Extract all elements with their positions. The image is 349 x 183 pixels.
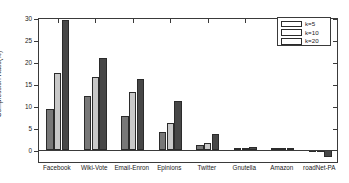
y-tick-label: 15 <box>25 82 32 88</box>
y-tick-label: 0 <box>28 148 32 154</box>
x-tick-label: roadNet-PA <box>303 165 335 171</box>
y-tick <box>34 129 39 130</box>
y-tick <box>34 41 39 42</box>
legend-label-k5: k=5 <box>305 21 315 27</box>
x-tick-mirror <box>245 19 246 23</box>
bar-k20-twitter <box>212 134 219 150</box>
y-tick-label: 5 <box>28 126 32 132</box>
x-tick-label: Wiki-Vote <box>81 165 108 171</box>
x-tick-label: Gnutella <box>233 165 256 171</box>
y-tick-label: 20 <box>25 60 32 66</box>
y-tick-label: 10 <box>25 104 32 110</box>
y-tick <box>34 85 39 86</box>
y-tick-mirror <box>333 19 337 20</box>
bar-k20-wiki-vote <box>99 58 106 150</box>
zero-baseline <box>38 150 338 151</box>
legend-label-k10: k=10 <box>305 30 319 36</box>
legend-swatch-k5 <box>281 21 302 28</box>
legend-item: k=20 <box>281 37 327 45</box>
legend-swatch-k20 <box>281 38 302 45</box>
bar-k10-email-enron <box>129 92 136 150</box>
legend-swatch-k10 <box>281 29 302 36</box>
x-tick-label: Amazon <box>270 165 293 171</box>
x-tick-mirror <box>133 19 134 23</box>
bar-k5-wiki-vote <box>84 96 91 150</box>
y-axis-title: Compression Ratio(%) <box>0 51 2 117</box>
bar-k20-facebook <box>62 20 69 150</box>
y-tick-mirror <box>333 41 337 42</box>
x-tick-label: Email-Enron <box>114 165 149 171</box>
legend-label-k20: k=20 <box>305 38 319 44</box>
x-tick-label: Facebook <box>43 165 71 171</box>
legend: k=5 k=10 k=20 <box>277 17 331 46</box>
bar-k10-facebook <box>54 73 61 150</box>
x-tick-mirror <box>208 19 209 23</box>
y-tick <box>34 63 39 64</box>
bar-k10-wiki-vote <box>92 77 99 150</box>
x-tick-mirror <box>95 19 96 23</box>
y-tick-label: 30 <box>25 16 32 22</box>
legend-item: k=10 <box>281 29 327 37</box>
bar-k20-epinions <box>174 101 181 150</box>
x-tick-mirror <box>58 19 59 23</box>
legend-item: k=5 <box>281 20 327 28</box>
y-tick <box>34 19 39 20</box>
y-tick-mirror <box>333 107 337 108</box>
y-tick-mirror <box>333 85 337 86</box>
bar-k5-epinions <box>159 132 166 150</box>
bar-chart-figure: Compression Ratio(%) 051015202530 Facebo… <box>0 0 349 183</box>
below-axis-area <box>38 150 338 163</box>
bar-k20-email-enron <box>137 79 144 150</box>
bar-k20-roadnet-pa <box>324 150 331 157</box>
bar-k5-facebook <box>46 109 53 150</box>
x-tick-label: Twitter <box>197 165 216 171</box>
x-tick-label: Epinions <box>157 165 181 171</box>
y-tick-mirror <box>333 63 337 64</box>
y-tick-mirror <box>333 129 337 130</box>
y-tick <box>34 107 39 108</box>
x-tick-mirror <box>170 19 171 23</box>
y-tick-label: 25 <box>25 38 32 44</box>
bar-k5-email-enron <box>121 116 128 150</box>
bar-k10-epinions <box>167 123 174 150</box>
